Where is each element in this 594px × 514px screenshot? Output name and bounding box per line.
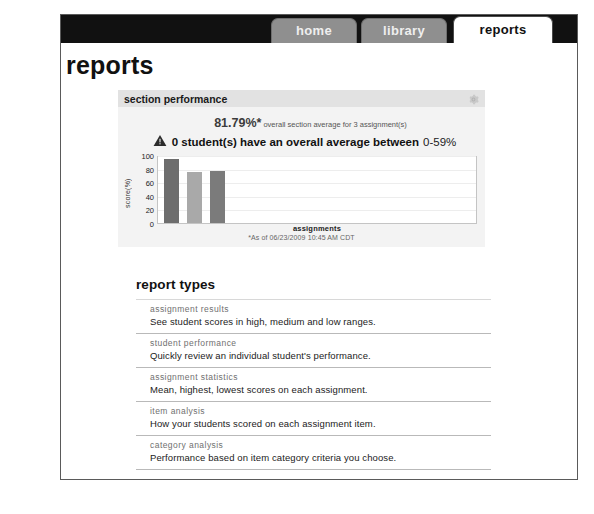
low-average-warning: 0 student(s) have an overall average bet… xyxy=(124,133,479,151)
top-navigation-bar: home library reports xyxy=(61,15,577,43)
page-title: reports xyxy=(66,51,154,80)
report-type-label[interactable]: assignment statistics xyxy=(150,372,491,382)
report-type-description: See student scores in high, medium and l… xyxy=(150,316,491,327)
report-type-item[interactable]: student performanceQuickly review an ind… xyxy=(136,334,491,368)
chart-gridline xyxy=(158,170,476,171)
report-type-description: How your students scored on each assignm… xyxy=(150,418,491,429)
report-type-description: Mean, highest, lowest scores on each ass… xyxy=(150,384,491,395)
report-type-label[interactable]: category analysis xyxy=(150,440,491,450)
chart-y-tick-label: 40 xyxy=(146,193,154,200)
report-type-description: Quickly review an individual student's p… xyxy=(150,350,491,361)
low-average-warning-range: 0-59% xyxy=(423,136,456,148)
chart-bar xyxy=(164,159,179,223)
chart-gridline xyxy=(158,156,476,157)
tab-list: home library reports xyxy=(61,15,577,43)
chart-y-tick-label: 60 xyxy=(146,180,154,187)
chart-gridline xyxy=(158,210,476,211)
section-performance-panel: section performance 81.79%*overall secti… xyxy=(118,90,485,247)
report-type-item[interactable]: category analysisPerformance based on it… xyxy=(136,436,491,470)
report-type-item[interactable]: item analysisHow your students scored on… xyxy=(136,402,491,436)
low-average-warning-text: 0 student(s) have an overall average bet… xyxy=(172,136,419,148)
report-types-section: report types assignment resultsSee stude… xyxy=(136,277,491,470)
overall-average-value: 81.79%* xyxy=(214,116,261,130)
section-performance-title: section performance xyxy=(124,93,227,105)
chart-y-tick-label: 100 xyxy=(141,153,154,160)
chart-y-axis-ticks: 020406080100 xyxy=(136,156,156,224)
application-window: home library reports reports section per… xyxy=(60,14,578,480)
tab-library[interactable]: library xyxy=(361,18,447,43)
warning-triangle-icon xyxy=(153,133,167,151)
section-performance-body: 81.79%*overall section average for 3 ass… xyxy=(118,107,485,247)
section-performance-header: section performance xyxy=(118,90,485,107)
report-types-list: assignment resultsSee student scores in … xyxy=(136,299,491,470)
chart-y-tick-label: 80 xyxy=(146,166,154,173)
report-type-label[interactable]: student performance xyxy=(150,338,491,348)
chart-y-axis-label: score(%) xyxy=(124,164,136,222)
chart-bar xyxy=(187,172,202,223)
chart-plot-area xyxy=(157,156,477,224)
gear-icon[interactable] xyxy=(467,92,480,105)
chart-y-tick-label: 0 xyxy=(150,221,154,228)
report-types-title: report types xyxy=(136,277,491,292)
report-type-item[interactable]: assignment resultsSee student scores in … xyxy=(136,299,491,334)
chart-gridline xyxy=(158,183,476,184)
report-type-description: Performance based on item category crite… xyxy=(150,452,491,463)
report-type-item[interactable]: assignment statisticsMean, highest, lowe… xyxy=(136,368,491,402)
tab-reports[interactable]: reports xyxy=(453,16,553,43)
overall-average-line: 81.79%*overall section average for 3 ass… xyxy=(124,113,479,131)
report-type-label[interactable]: assignment results xyxy=(150,304,491,314)
chart-as-of-timestamp: *As of 06/23/2009 10:45 AM CDT xyxy=(124,233,479,242)
chart-y-tick-label: 20 xyxy=(146,207,154,214)
chart-x-axis-label: assignments xyxy=(157,224,477,233)
chart-gridline xyxy=(158,197,476,198)
overall-average-label: overall section average for 3 assignment… xyxy=(263,120,406,129)
chart-bar xyxy=(210,171,225,223)
tab-home[interactable]: home xyxy=(271,18,357,43)
report-type-label[interactable]: item analysis xyxy=(150,406,491,416)
section-performance-chart: score(%) 020406080100 assignments xyxy=(124,156,479,232)
